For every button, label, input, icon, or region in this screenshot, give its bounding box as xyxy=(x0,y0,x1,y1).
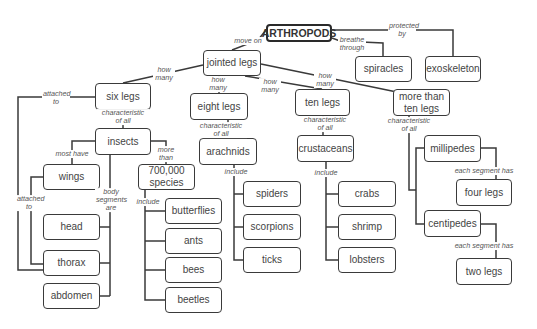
node-jointed-legs[interactable]: jointed legs xyxy=(203,50,261,76)
link-each-segment-millipedes: each segment has xyxy=(454,167,515,175)
link-char-insects: characteristic of all xyxy=(97,109,149,125)
node-more-than-ten-legs[interactable]: more than ten legs xyxy=(393,89,450,116)
node-thorax[interactable]: thorax xyxy=(43,250,100,276)
node-centipedes[interactable]: centipedes xyxy=(424,210,481,237)
node-two-legs[interactable]: two legs xyxy=(456,258,512,285)
node-exoskeleton[interactable]: exoskeleton xyxy=(425,56,481,82)
link-how-many-eight: how many xyxy=(207,76,229,92)
link-move-on: move on xyxy=(233,37,263,45)
link-breathe-through: breathe through xyxy=(338,36,366,52)
link-char-crustaceans: characteristic of all xyxy=(299,116,351,132)
node-spiders[interactable]: spiders xyxy=(243,181,301,207)
node-four-legs[interactable]: four legs xyxy=(456,179,512,206)
link-protected-by: protected by xyxy=(388,22,416,38)
link-attached-to-wings: attached to xyxy=(16,195,42,211)
link-char-arachnids: characteristic of all xyxy=(195,122,247,138)
node-arachnids[interactable]: arachnids xyxy=(199,138,257,165)
link-body-segments-are: body segments are xyxy=(95,188,127,212)
node-ticks[interactable]: ticks xyxy=(243,247,301,273)
node-six-legs[interactable]: six legs xyxy=(95,83,151,110)
node-millipedes[interactable]: millipedes xyxy=(424,135,481,162)
node-lobsters[interactable]: lobsters xyxy=(338,247,396,273)
node-ten-legs[interactable]: ten legs xyxy=(295,89,350,116)
node-wings[interactable]: wings xyxy=(43,164,100,190)
link-how-many-ten: how many xyxy=(259,78,281,94)
link-char-myriapods: characteristic of all xyxy=(383,117,435,133)
link-attached-to-six: attached to xyxy=(42,90,70,106)
node-insects[interactable]: insects xyxy=(95,128,151,155)
node-spiracles[interactable]: spiracles xyxy=(355,56,412,82)
concept-map: ARTHROPODS jointed legs spiracles exoske… xyxy=(0,0,537,329)
link-each-segment-centipedes: each segment has xyxy=(454,242,515,250)
node-crustaceans[interactable]: crustaceans xyxy=(297,135,354,162)
link-include-crustaceans: include xyxy=(314,169,339,177)
node-arthropods[interactable]: ARTHROPODS xyxy=(266,24,332,42)
node-crabs[interactable]: crabs xyxy=(338,181,396,207)
link-how-many-six: how many xyxy=(153,66,175,82)
node-ants[interactable]: ants xyxy=(165,228,222,254)
node-700000-species[interactable]: 700,000 species xyxy=(138,164,195,190)
node-beetles[interactable]: beetles xyxy=(165,287,222,313)
link-include-species: include xyxy=(136,198,161,206)
link-include-arachnids: include xyxy=(224,168,249,176)
node-abdomen[interactable]: abdomen xyxy=(43,283,100,309)
node-butterflies[interactable]: butterflies xyxy=(165,198,222,224)
link-more-than: more than xyxy=(155,146,177,162)
node-shrimp[interactable]: shrimp xyxy=(338,214,396,240)
node-bees[interactable]: bees xyxy=(165,257,222,283)
node-head[interactable]: head xyxy=(43,214,100,240)
node-eight-legs[interactable]: eight legs xyxy=(190,93,248,120)
link-how-many-more: how many xyxy=(314,72,336,88)
node-scorpions[interactable]: scorpions xyxy=(243,214,301,240)
link-most-have: most have xyxy=(54,150,89,158)
